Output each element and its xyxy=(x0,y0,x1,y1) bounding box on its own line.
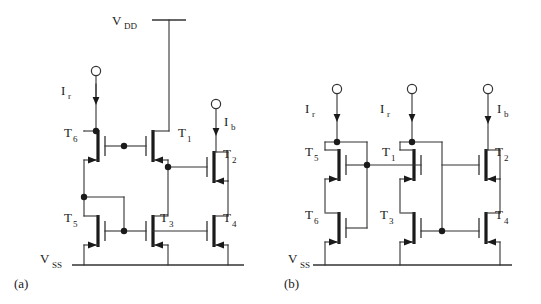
ib-sublabel-b: b xyxy=(504,109,509,119)
transistor-T3-b xyxy=(400,212,442,265)
T1-sublabel-a: 1 xyxy=(187,134,192,144)
transistor-T2-b xyxy=(442,149,500,212)
T1-sublabel-b: 1 xyxy=(391,153,396,163)
transistor-T1-b xyxy=(367,142,442,231)
T3-sublabel-b: 3 xyxy=(389,216,394,226)
vdd-label-a: V xyxy=(112,13,122,28)
ib-label-a: I xyxy=(224,114,228,129)
node-a-4 xyxy=(81,194,87,200)
circuit-figure: V DD I r I b T 6 T 1 xyxy=(0,0,541,304)
ir-label-a: I xyxy=(61,83,65,98)
node-a-3 xyxy=(165,164,171,170)
ir-middle-sublabel-b: r xyxy=(387,109,390,119)
node-a-2 xyxy=(121,143,127,149)
T3-sublabel-a: 3 xyxy=(169,219,174,229)
transistor-T1-a xyxy=(124,130,169,215)
T2-sublabel-a: 2 xyxy=(232,155,237,165)
T3-label-a: T xyxy=(160,210,168,225)
transistor-T4-b xyxy=(442,212,500,265)
node-b-3 xyxy=(364,162,370,168)
panel-a-label: (a) xyxy=(14,276,28,291)
transistor-T6-a xyxy=(84,130,124,197)
T6-sublabel-a: 6 xyxy=(73,134,78,144)
T6-label-b: T xyxy=(305,207,313,222)
T6-label-a: T xyxy=(64,125,72,140)
vdd-rail-a xyxy=(152,20,186,131)
T4-sublabel-b: 4 xyxy=(504,216,509,226)
T6-sublabel-b: 6 xyxy=(314,216,319,226)
ib-sublabel-a: b xyxy=(231,122,236,132)
node-b-4 xyxy=(439,228,445,234)
T5-sublabel-b: 5 xyxy=(314,153,319,163)
ir-left-label-b: I xyxy=(305,101,309,116)
vss-sublabel-a: SS xyxy=(52,260,62,270)
T2-label-a: T xyxy=(223,146,231,161)
T5-sublabel-a: 5 xyxy=(73,219,78,229)
ib-terminal-a xyxy=(211,99,220,152)
T1-label-b: T xyxy=(382,144,390,159)
T4-label-b: T xyxy=(495,207,503,222)
ir-terminal-b-middle xyxy=(407,84,416,142)
vdd-sublabel-a: DD xyxy=(124,21,137,31)
T2-label-b: T xyxy=(495,144,503,159)
ir-terminal-b-left xyxy=(332,84,341,142)
ib-label-b: I xyxy=(497,101,501,116)
transistor-T5-a xyxy=(84,197,124,265)
T1-label-a: T xyxy=(178,125,186,140)
transistor-T5-b xyxy=(325,142,367,212)
node-a-5 xyxy=(121,228,127,234)
ir-terminal-a xyxy=(91,66,100,131)
vss-label-a: V xyxy=(40,251,50,266)
T3-label-b: T xyxy=(380,207,388,222)
vss-sublabel-b: SS xyxy=(300,260,310,270)
ir-left-sublabel-b: r xyxy=(312,109,315,119)
node-a-1 xyxy=(93,128,99,134)
ib-terminal-b xyxy=(483,84,492,150)
node-b-1 xyxy=(334,139,340,145)
ir-middle-label-b: I xyxy=(380,101,384,116)
T5-label-b: T xyxy=(305,144,313,159)
ir-sublabel-a: r xyxy=(68,91,71,101)
node-b-2 xyxy=(409,139,415,145)
T2-sublabel-b: 2 xyxy=(504,153,509,163)
T4-label-a: T xyxy=(223,210,231,225)
vss-label-b: V xyxy=(288,251,298,266)
panel-a-schematic: V DD I r I b T 6 T 1 xyxy=(0,0,541,304)
T5-label-a: T xyxy=(64,210,72,225)
panel-b-label: (b) xyxy=(284,276,299,291)
T4-sublabel-a: 4 xyxy=(232,219,237,229)
transistor-T2-a xyxy=(168,151,228,216)
